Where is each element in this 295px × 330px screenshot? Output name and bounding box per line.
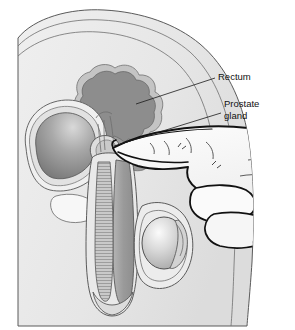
anatomy-illustration-canvas: Rectum Prostate gland (0, 0, 295, 330)
label-prostate-gland-line2: gland (224, 110, 247, 121)
corpus-cavernosum (113, 160, 134, 306)
label-rectum: Rectum (218, 71, 251, 82)
medical-illustration-figure: Rectum Prostate gland (0, 0, 295, 330)
scrotum-structure (134, 203, 193, 289)
penis-structure (86, 153, 138, 316)
label-prostate-gland-line1: Prostate (224, 98, 259, 109)
corpus-spongiosum-urethra (95, 162, 113, 301)
folded-ring-finger (205, 212, 271, 248)
palm-line-1 (248, 159, 290, 166)
thumb-edge (252, 130, 293, 154)
